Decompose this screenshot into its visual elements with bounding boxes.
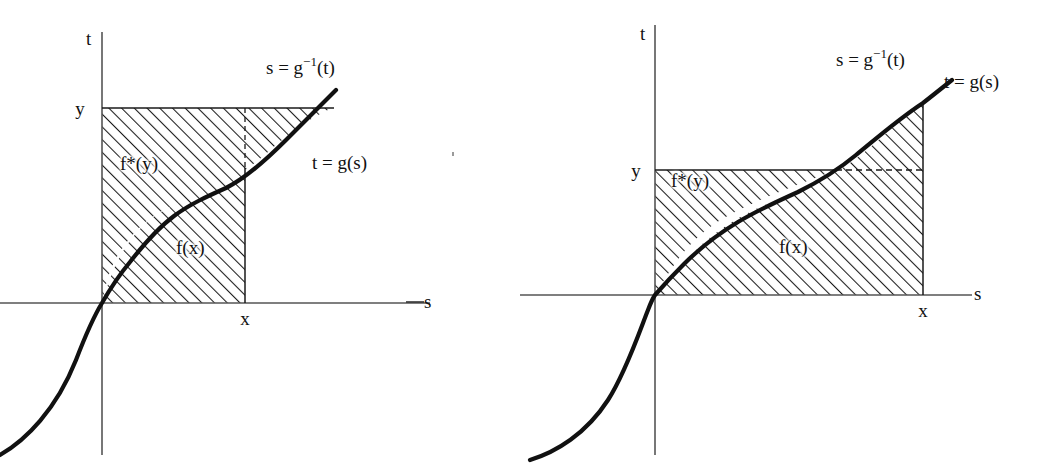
left-s-axis-label: s [424, 291, 431, 312]
left-y-tick-label: y [75, 98, 85, 119]
scan-speck [452, 152, 454, 156]
right-curve-label: t = g(s) [944, 72, 999, 91]
right-inverse-curve-suffix: (t) [887, 49, 905, 70]
left-f-star-y-label: f*(y) [120, 154, 158, 173]
right-x-tick-label: x [918, 300, 928, 321]
right-inverse-curve-prefix: s = g [836, 49, 873, 70]
right-t-axis-label: t [640, 23, 646, 44]
right-inverse-curve-exponent: −1 [873, 46, 887, 61]
right-f-star-y-label: f*(y) [671, 171, 709, 190]
left-panel: t s y x [0, 28, 431, 455]
left-inverse-curve-label: s = g−1(t) [266, 56, 335, 77]
left-inverse-curve-suffix: (t) [317, 57, 335, 78]
left-t-axis-label: t [86, 28, 92, 49]
left-curve-label: t = g(s) [312, 153, 367, 172]
left-inverse-curve-prefix: s = g [266, 57, 303, 78]
right-inverse-curve-label: s = g−1(t) [836, 48, 905, 69]
right-panel: t s y x [520, 23, 981, 460]
right-y-tick-label: y [631, 160, 641, 181]
left-f-x-label: f(x) [176, 238, 204, 257]
left-inverse-curve-exponent: −1 [303, 54, 317, 69]
right-s-axis-label: s [974, 283, 981, 304]
young-inequality-figure: t s y x t s y x [0, 0, 1038, 469]
right-f-x-label: f(x) [779, 237, 807, 256]
left-x-tick-label: x [240, 308, 250, 329]
